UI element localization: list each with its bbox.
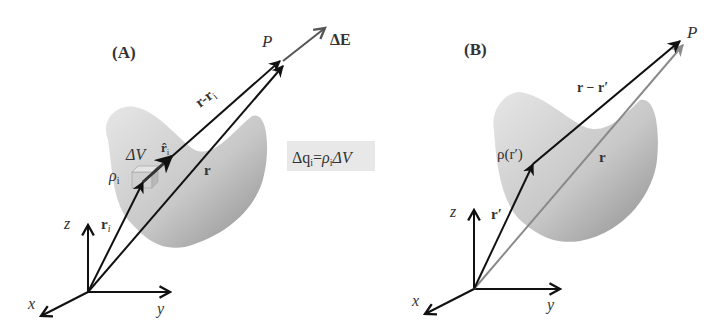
rprime-label: r′ <box>491 206 502 222</box>
panel-label-b: (B) <box>464 40 487 59</box>
diagram-canvas: (A) P ΔE r-ri ΔV r̂i ρi r ri Δqi=ρiΔV z … <box>0 0 727 333</box>
z-axis-label-b: z <box>449 203 457 220</box>
delta-e-label: ΔE <box>330 31 351 48</box>
r-minus-rprime-label: r − r′ <box>577 80 608 95</box>
x-axis-a <box>41 292 88 316</box>
y-axis-label-a: y <box>155 300 165 318</box>
r-label-a: r <box>204 162 211 178</box>
r-label-b: r <box>599 149 606 165</box>
x-axis-b <box>425 289 474 314</box>
point-p-label-b: P <box>686 23 697 42</box>
volume-element-cube <box>132 166 158 188</box>
panel-b: (B) P r − r′ ρ(r′) r r′ z y x <box>411 23 697 314</box>
delta-v-label: ΔV <box>125 146 147 163</box>
x-axis-label-b: x <box>411 292 419 309</box>
point-p-label-a: P <box>261 32 272 51</box>
ri-label: ri <box>101 216 111 234</box>
charge-distribution-blob-b <box>493 92 658 242</box>
panel-label-a: (A) <box>112 43 136 62</box>
rho-rprime-label: ρ(r′) <box>497 146 523 163</box>
field-vector-delta-e <box>283 28 325 61</box>
r-minus-ri-label: r-ri <box>192 85 219 112</box>
equation-text: Δqi=ρiΔV <box>292 149 354 168</box>
y-axis-label-b: y <box>545 296 555 314</box>
panel-a: (A) P ΔE r-ri ΔV r̂i ρi r ri Δqi=ρiΔV z … <box>27 28 375 318</box>
z-axis-label-a: z <box>63 215 71 232</box>
x-axis-label-a: x <box>27 295 35 312</box>
